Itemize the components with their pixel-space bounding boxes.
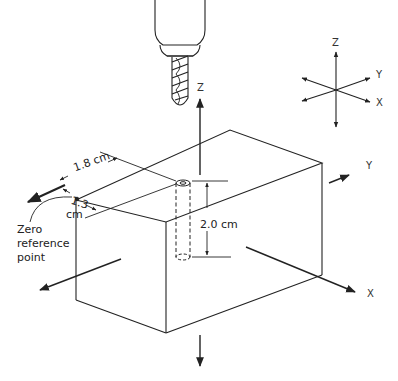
block-axis-x-label: X — [367, 288, 374, 300]
workpiece-block — [76, 130, 322, 333]
legend-axis-x-label: X — [376, 97, 383, 109]
axis-legend-icon — [302, 52, 370, 127]
dimension-y-unit-label: cm — [66, 209, 83, 221]
block-axis-y-label: Y — [366, 160, 372, 172]
legend-axis-y-label: Y — [376, 69, 382, 81]
legend-axis-z-label: Z — [332, 37, 339, 49]
drilled-hole — [176, 180, 190, 260]
machining-diagram — [0, 0, 398, 381]
zero-reference-label-line3: point — [17, 252, 45, 264]
block-axis-z-label: Z — [197, 82, 204, 94]
zero-reference-label-line2: reference — [17, 238, 70, 250]
depth-dimension-label: 2.0 cm — [199, 219, 239, 231]
zero-reference-label-line1: Zero — [17, 224, 42, 236]
block-axes — [28, 99, 355, 366]
